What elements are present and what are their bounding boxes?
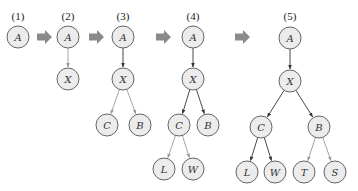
node-a: A [112, 26, 134, 48]
node-label: L [160, 164, 168, 175]
node-label: A [13, 32, 21, 43]
node-b: B [129, 114, 151, 136]
edge-c-l [168, 135, 176, 157]
step-arrow-icon [235, 30, 250, 44]
edge-x-b [296, 90, 313, 117]
edge-c-w [264, 138, 271, 161]
edge-x-c [267, 90, 284, 117]
step-label: (1) [12, 10, 25, 23]
node-label: X [188, 74, 197, 85]
step-2: (2)AX [57, 10, 79, 90]
node-label: B [314, 122, 322, 133]
node-label: X [118, 74, 127, 85]
node-label: A [118, 32, 126, 43]
node-label: W [188, 164, 199, 175]
node-w: W [182, 158, 204, 180]
node-a: A [182, 26, 204, 48]
node-label: C [103, 120, 111, 131]
step-1: (1)A [7, 10, 29, 48]
node-w: W [264, 161, 286, 183]
node-s: S [324, 161, 346, 183]
node-b: B [197, 114, 219, 136]
node-label: A [285, 33, 293, 44]
node-label: B [203, 120, 211, 131]
node-label: X [285, 76, 294, 87]
node-l: L [153, 158, 175, 180]
node-a: A [57, 26, 79, 48]
node-label: L [243, 167, 251, 178]
edge-x-c [111, 89, 119, 113]
node-x: X [57, 68, 79, 90]
tree-growth-diagram: (1)A(2)AX(3)AXCB(4)AXCBLW(5)AXCBLWTS [0, 0, 358, 191]
node-b: B [308, 116, 330, 138]
node-l: L [236, 161, 258, 183]
node-x: X [112, 68, 134, 90]
edge-b-s [323, 137, 331, 160]
node-label: X [63, 74, 72, 85]
edge-x-c [182, 90, 189, 114]
node-c: C [168, 114, 190, 136]
node-x: X [279, 70, 301, 92]
step-arrow-icon [156, 30, 171, 44]
edge-c-l [251, 138, 258, 161]
node-label: C [257, 122, 265, 133]
node-label: C [175, 120, 183, 131]
edge-x-b [127, 89, 136, 113]
step-label: (3) [117, 10, 130, 23]
step-label: (2) [62, 10, 75, 23]
steps: (1)A(2)AX(3)AXCB(4)AXCBLW(5)AXCBLWTS [7, 10, 346, 183]
step-arrow-icon [89, 30, 104, 44]
edge-b-t [308, 137, 316, 160]
step-label: (5) [284, 10, 297, 23]
step-label: (4) [187, 10, 200, 23]
edge-x-b [196, 89, 204, 113]
node-t: T [293, 161, 315, 183]
step-arrow-icon [37, 30, 52, 44]
node-label: A [188, 32, 196, 43]
node-c: C [250, 116, 272, 138]
node-label: B [135, 120, 143, 131]
node-x: X [182, 68, 204, 90]
node-a: A [7, 26, 29, 48]
node-label: W [270, 167, 281, 178]
node-label: A [63, 32, 71, 43]
edge-c-w [182, 135, 189, 157]
step-5: (5)AXCBLWTS [236, 10, 346, 183]
node-c: C [96, 114, 118, 136]
node-a: A [279, 27, 301, 49]
node-label: S [332, 167, 339, 178]
step-3: (3)AXCB [96, 10, 151, 136]
